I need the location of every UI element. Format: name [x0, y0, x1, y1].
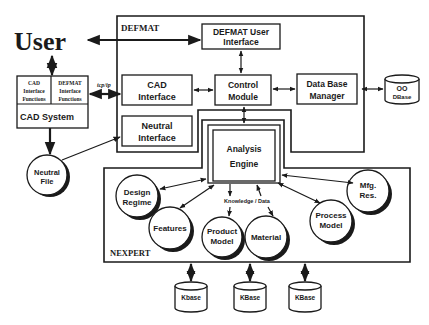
engine-process-model-arrow	[278, 183, 320, 203]
mfg-res-circle: Mfg. Res.	[347, 170, 392, 215]
svg-text:DBase: DBase	[393, 94, 412, 100]
architecture-diagram: User DEFMAT NEXPERT DEFMAT User Interfac…	[0, 0, 429, 325]
svg-text:Interface: Interface	[138, 92, 176, 102]
user-label: User	[14, 27, 66, 56]
kbase-3-cylinder: KBase	[289, 282, 321, 312]
neutral-interface-box: Neutral Interface	[122, 116, 192, 146]
defmat-frame-label: DEFMAT	[121, 23, 159, 33]
svg-text:Interface: Interface	[223, 37, 259, 47]
svg-text:KBase: KBase	[295, 294, 316, 301]
svg-text:Neutral: Neutral	[34, 168, 60, 177]
material-circle: Material	[245, 216, 290, 261]
svg-text:Kbase: Kbase	[181, 294, 201, 301]
svg-text:Interface: Interface	[59, 88, 81, 94]
tcpip-label: tcp/ip	[97, 82, 111, 88]
svg-text:Functions: Functions	[22, 96, 45, 102]
svg-text:Features: Features	[153, 224, 187, 233]
product-model-knowledge-arrow	[229, 207, 230, 216]
svg-text:File: File	[41, 177, 54, 186]
svg-text:Regime: Regime	[123, 198, 152, 207]
product-model-circle: Product Model	[202, 217, 245, 260]
process-model-circle: Process Model	[310, 200, 355, 245]
svg-text:Interface: Interface	[138, 133, 176, 143]
svg-text:Data Base: Data Base	[306, 79, 347, 89]
svg-text:Model: Model	[319, 221, 342, 230]
analysis-engine-box: Analysis Engine	[208, 125, 280, 183]
svg-text:Control: Control	[228, 80, 258, 90]
cad-system-label: CAD System	[20, 112, 74, 122]
engine-mfg-res-arrow	[282, 175, 353, 183]
svg-text:Process: Process	[315, 211, 347, 220]
engine-design-regime-arrow	[160, 179, 206, 189]
cad-interface-box: CAD Interface	[122, 75, 192, 105]
kbase-1-cylinder: Kbase	[175, 282, 207, 312]
svg-text:Analysis: Analysis	[227, 144, 262, 154]
svg-text:Module: Module	[228, 92, 258, 102]
svg-text:Design: Design	[124, 188, 151, 197]
neutral-file-to-interface-arrow	[62, 137, 120, 160]
svg-text:CAD: CAD	[147, 80, 167, 90]
nexpert-frame-label: NEXPERT	[110, 248, 151, 258]
svg-text:Neutral: Neutral	[141, 121, 172, 131]
svg-text:Manager: Manager	[310, 91, 346, 101]
svg-text:Product: Product	[207, 227, 238, 236]
svg-text:KBase: KBase	[240, 294, 261, 301]
svg-text:OO: OO	[397, 85, 408, 92]
engine-features-arrow	[180, 185, 214, 208]
defmat-user-interface-box: DEFMAT User Interface	[202, 24, 280, 49]
data-base-manager-box: Data Base Manager	[297, 74, 357, 104]
svg-text:Res.: Res.	[360, 191, 377, 200]
svg-text:Mfg.: Mfg.	[360, 181, 376, 190]
kbase-2-cylinder: KBase	[234, 282, 266, 312]
svg-text:DEFMAT User: DEFMAT User	[213, 27, 270, 37]
cad-interface-functions-label: CAD	[28, 80, 40, 86]
svg-text:Engine: Engine	[230, 159, 259, 169]
svg-text:Material: Material	[251, 233, 281, 242]
material-knowledge-arrow	[268, 207, 273, 216]
knowledge-data-annotation: Knowledge / Data	[224, 198, 271, 204]
oo-dbase-cylinder: OO DBase	[385, 75, 419, 104]
control-module-box: Control Module	[215, 75, 271, 105]
cad-system-box: CAD Interface Functions DEFMAT Interface…	[17, 76, 88, 128]
svg-text:Model: Model	[210, 237, 233, 246]
svg-text:Interface: Interface	[23, 88, 45, 94]
features-circle: Features	[149, 207, 194, 252]
svg-text:Functions: Functions	[58, 96, 81, 102]
defmat-interface-functions-label: DEFMAT	[58, 80, 82, 86]
engine-material-arrow	[257, 185, 261, 196]
neutral-file-circle: Neutral File	[27, 155, 70, 197]
